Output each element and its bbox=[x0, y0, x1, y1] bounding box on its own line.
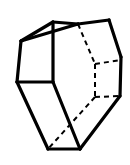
right-vertical-edge bbox=[120, 57, 121, 96]
figure-canvas bbox=[0, 0, 130, 165]
hexagonal-prism-drawing bbox=[0, 0, 130, 165]
prism-silhouette-fill bbox=[17, 20, 121, 149]
hidden-back-bottom-edge bbox=[95, 96, 120, 97]
